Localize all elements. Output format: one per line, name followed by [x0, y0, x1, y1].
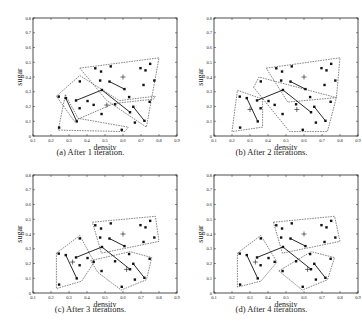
x-tick-label: 0.1 — [30, 295, 36, 300]
x-tick-label: 0.6 — [301, 295, 307, 300]
panel-b: 0.10.20.30.40.50.60.70.80.900.10.20.30.4… — [181, 0, 362, 167]
data-point — [148, 101, 150, 103]
data-point — [121, 286, 123, 288]
y-axis-label: sugar — [196, 68, 205, 86]
y-tick-label: 0.6 — [206, 45, 212, 50]
data-point — [110, 65, 112, 67]
x-tick-label: 0.8 — [156, 138, 162, 143]
data-point — [108, 80, 110, 82]
data-point — [75, 99, 77, 101]
link-segment — [257, 247, 283, 257]
y-tick-label: 0.7 — [25, 30, 31, 35]
data-point — [153, 79, 155, 81]
data-point — [295, 103, 297, 105]
data-point — [310, 111, 312, 113]
data-point — [128, 253, 130, 255]
data-point — [79, 80, 81, 82]
cluster-region — [91, 252, 152, 290]
data-point — [313, 263, 315, 265]
data-point — [282, 246, 284, 248]
data-point — [110, 222, 112, 224]
data-point — [315, 121, 317, 123]
data-point — [99, 79, 101, 81]
data-point — [329, 101, 331, 103]
data-point — [281, 270, 283, 272]
data-point — [76, 120, 78, 122]
data-point — [100, 227, 102, 229]
y-tick-label: 0.5 — [25, 217, 31, 222]
data-point — [334, 79, 336, 81]
data-point — [132, 106, 134, 108]
data-point — [149, 220, 151, 222]
x-tick-label: 0.1 — [30, 138, 36, 143]
y-tick-label: 0.7 — [206, 187, 212, 192]
y-tick-label: 0.4 — [25, 232, 31, 237]
data-point — [257, 277, 259, 279]
y-tick-label: 0.8 — [206, 16, 212, 21]
link-segment — [110, 239, 125, 247]
data-point — [330, 220, 332, 222]
data-point — [320, 224, 322, 226]
data-point — [257, 120, 259, 122]
data-point — [134, 278, 136, 280]
y-tick-label: 0.8 — [25, 173, 31, 178]
x-tick-label: 0.2 — [48, 138, 54, 143]
data-point — [129, 268, 131, 270]
data-point — [259, 107, 261, 109]
data-point — [259, 264, 261, 266]
x-tick-label: 0.4 — [84, 138, 90, 143]
x-tick-label: 0.1 — [211, 138, 217, 143]
y-tick-label: 0.6 — [25, 45, 31, 50]
y-tick-label: 0.1 — [206, 119, 212, 124]
data-point — [302, 286, 304, 288]
cluster-region — [80, 58, 159, 127]
data-point — [149, 63, 151, 65]
data-point — [295, 260, 297, 262]
link-segment — [102, 90, 130, 112]
cluster-region — [56, 76, 155, 122]
data-point — [281, 113, 283, 115]
data-point — [281, 70, 283, 72]
data-point — [121, 129, 123, 131]
data-point — [304, 245, 306, 247]
data-point — [100, 70, 102, 72]
y-tick-label: 0.7 — [25, 187, 31, 192]
y-axis-label: sugar — [15, 225, 24, 243]
data-point — [114, 260, 116, 262]
data-point — [273, 104, 275, 106]
data-point — [132, 263, 134, 265]
y-tick-label: 0.2 — [25, 104, 31, 109]
data-point — [330, 63, 332, 65]
data-point — [128, 96, 130, 98]
data-point — [134, 121, 136, 123]
caption-a: (a) After 1 iteration. — [0, 147, 181, 157]
data-point — [58, 252, 60, 254]
data-point — [273, 261, 275, 263]
data-point — [260, 237, 262, 239]
data-point — [260, 80, 262, 82]
y-tick-label: 0.4 — [206, 232, 212, 237]
x-tick-label: 0.1 — [211, 295, 217, 300]
link-segment — [291, 239, 306, 247]
data-point — [92, 261, 94, 263]
link-segment — [110, 82, 125, 90]
data-point — [79, 237, 81, 239]
x-tick-label: 0.7 — [138, 138, 144, 143]
data-point — [324, 120, 326, 122]
x-tick-label: 0.7 — [319, 138, 325, 143]
data-point — [329, 258, 331, 260]
panel-a: 0.10.20.30.40.50.60.70.80.900.10.20.30.4… — [0, 0, 181, 167]
cluster-region — [232, 90, 263, 131]
data-point — [65, 254, 67, 256]
data-point — [291, 65, 293, 67]
y-tick-label: 0.2 — [25, 261, 31, 266]
data-point — [114, 103, 116, 105]
y-tick-label: 0.2 — [206, 104, 212, 109]
plot-b: 0.10.20.30.40.50.60.70.80.900.10.20.30.4… — [181, 0, 362, 150]
panel-c: 0.10.20.30.40.50.60.70.80.900.10.20.30.4… — [0, 157, 181, 324]
x-tick-label: 0.6 — [120, 295, 126, 300]
caption-b: (b) After 2 iterations. — [181, 147, 362, 157]
data-point — [310, 268, 312, 270]
data-point — [281, 227, 283, 229]
y-tick-label: 0.4 — [25, 75, 31, 80]
